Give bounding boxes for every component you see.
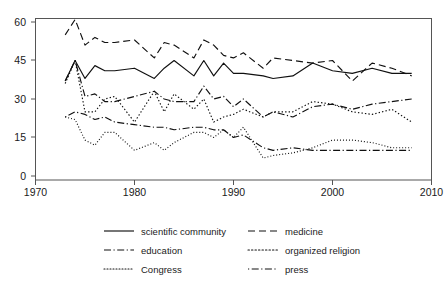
x-tick-label-2010: 2010 <box>420 186 444 198</box>
y-tick-label-0: 0 <box>20 170 26 182</box>
x-tick-label-1970: 1970 <box>24 186 48 198</box>
x-tick-label-2000: 2000 <box>321 186 345 198</box>
y-tick-label-15: 15 <box>14 131 26 143</box>
line-chart-figure: 60 45 30 15 0 1970 1980 1990 2000 2010 s… <box>0 0 444 282</box>
y-tick-label-60: 60 <box>14 16 26 28</box>
legend-label-press: press <box>285 264 308 275</box>
y-tick-label-30: 30 <box>14 93 26 105</box>
legend-label-congress: Congress <box>141 264 182 275</box>
legend-label-medicine: medicine <box>285 226 323 237</box>
chart-background <box>0 0 444 282</box>
x-tick-label-1990: 1990 <box>222 186 246 198</box>
legend-label-scientific-community: scientific community <box>141 226 226 237</box>
legend-label-education: education <box>141 245 182 256</box>
x-tick-label-1980: 1980 <box>123 186 147 198</box>
legend-label-organized-religion: organized religion <box>285 245 360 256</box>
y-tick-label-45: 45 <box>14 54 26 66</box>
